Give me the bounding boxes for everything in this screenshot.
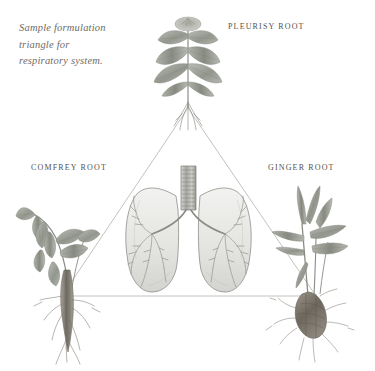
ginger-root-plant xyxy=(266,186,354,362)
botanical-artwork xyxy=(0,0,375,371)
illustration-page: Sample formulation triangle for respirat… xyxy=(0,0,375,371)
pleurisy-root-plant xyxy=(154,17,222,130)
comfrey-root-plant xyxy=(16,208,100,364)
lungs-illustration xyxy=(126,166,251,292)
